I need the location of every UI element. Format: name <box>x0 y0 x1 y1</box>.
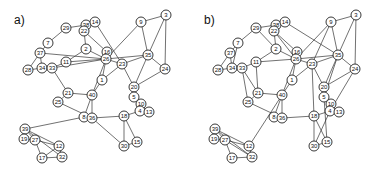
svg-text:25: 25 <box>55 99 62 105</box>
node-40: 40 <box>87 90 97 100</box>
panel-label: a) <box>14 13 25 27</box>
svg-text:32: 32 <box>59 154 66 160</box>
svg-text:12: 12 <box>246 143 253 149</box>
svg-text:23: 23 <box>119 61 126 67</box>
node-34: 34 <box>227 63 237 73</box>
node-30: 30 <box>119 141 129 151</box>
edge <box>215 129 249 146</box>
node-14: 14 <box>90 17 100 27</box>
svg-text:34: 34 <box>39 65 46 71</box>
node-39: 39 <box>20 124 30 134</box>
svg-text:13: 13 <box>146 109 153 115</box>
edge <box>25 117 84 129</box>
svg-text:26: 26 <box>293 56 300 62</box>
svg-text:35: 35 <box>335 52 342 58</box>
svg-text:27: 27 <box>32 137 39 143</box>
node-28: 28 <box>213 65 223 75</box>
node-22: 22 <box>269 26 279 36</box>
node-25: 25 <box>53 97 63 107</box>
svg-text:40: 40 <box>89 92 96 98</box>
svg-text:39: 39 <box>212 126 219 132</box>
node-17: 17 <box>37 153 47 163</box>
node-27: 27 <box>30 135 40 145</box>
edges <box>214 15 356 158</box>
edge <box>312 22 331 64</box>
panel-label: b) <box>204 13 215 27</box>
node-9: 9 <box>136 17 146 27</box>
svg-text:23: 23 <box>309 61 316 67</box>
edge <box>355 15 356 69</box>
svg-text:17: 17 <box>39 155 46 161</box>
node-23: 23 <box>117 59 127 69</box>
node-4: 4 <box>325 106 335 116</box>
node-33: 33 <box>47 63 57 73</box>
node-30: 30 <box>309 141 319 151</box>
svg-text:28: 28 <box>25 67 32 73</box>
node-21: 21 <box>63 88 73 98</box>
svg-text:18: 18 <box>121 113 128 119</box>
svg-text:13: 13 <box>336 109 343 115</box>
svg-text:19: 19 <box>211 136 218 142</box>
node-22: 22 <box>79 26 89 36</box>
node-1: 1 <box>97 75 107 85</box>
node-32: 32 <box>247 152 257 162</box>
node-34: 34 <box>37 63 47 73</box>
svg-text:19: 19 <box>21 136 28 142</box>
svg-text:18: 18 <box>311 113 318 119</box>
node-25: 25 <box>243 97 253 107</box>
svg-text:37: 37 <box>227 50 234 56</box>
node-17: 17 <box>227 153 237 163</box>
svg-text:33: 33 <box>239 65 246 71</box>
edge <box>52 59 106 68</box>
svg-text:20: 20 <box>321 84 328 90</box>
node-26: 26 <box>291 54 301 64</box>
network-figure: 3929381422737216263511283433232412140202… <box>0 0 382 171</box>
node-2: 2 <box>81 44 91 54</box>
svg-text:26: 26 <box>103 56 110 62</box>
node-4: 4 <box>135 106 145 116</box>
node-14: 14 <box>280 17 290 27</box>
svg-text:37: 37 <box>37 50 44 56</box>
edge <box>148 15 166 55</box>
node-37: 37 <box>225 48 235 58</box>
svg-text:24: 24 <box>162 66 169 72</box>
node-7: 7 <box>43 38 53 48</box>
edge <box>256 59 296 62</box>
node-9: 9 <box>326 17 336 27</box>
node-7: 7 <box>233 38 243 48</box>
svg-text:21: 21 <box>65 90 72 96</box>
node-26: 26 <box>101 54 111 64</box>
node-20: 20 <box>319 82 329 92</box>
node-21: 21 <box>253 88 263 98</box>
node-35: 35 <box>333 50 343 60</box>
node-28: 28 <box>23 65 33 75</box>
node-36: 36 <box>87 113 97 123</box>
svg-text:22: 22 <box>81 28 88 34</box>
node-13: 13 <box>144 107 154 117</box>
svg-text:22: 22 <box>271 28 278 34</box>
node-19: 19 <box>19 134 29 144</box>
svg-text:24: 24 <box>352 66 359 72</box>
edge <box>92 118 124 146</box>
node-13: 13 <box>334 107 344 117</box>
node-32: 32 <box>57 152 67 162</box>
node-3: 3 <box>161 10 171 20</box>
edge <box>66 59 106 62</box>
svg-text:32: 32 <box>249 154 256 160</box>
node-19: 19 <box>209 134 219 144</box>
svg-text:35: 35 <box>145 52 152 58</box>
svg-text:27: 27 <box>222 137 229 143</box>
svg-text:14: 14 <box>92 19 99 25</box>
node-18: 18 <box>309 111 319 121</box>
edges <box>24 15 166 158</box>
svg-text:14: 14 <box>282 19 289 25</box>
node-24: 24 <box>350 64 360 74</box>
edge <box>312 64 314 116</box>
svg-text:21: 21 <box>255 90 262 96</box>
node-39: 39 <box>210 124 220 134</box>
svg-text:17: 17 <box>229 155 236 161</box>
svg-text:29: 29 <box>253 25 260 31</box>
node-29: 29 <box>251 23 261 33</box>
edge <box>165 15 166 69</box>
svg-text:28: 28 <box>215 67 222 73</box>
